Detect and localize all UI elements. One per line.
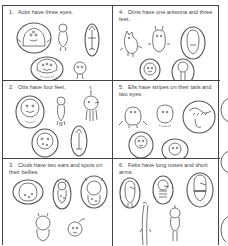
creature-drawings xyxy=(113,6,220,80)
cell-3-cluds: 3.Cluds have two ears and spots on their… xyxy=(3,159,112,246)
creature-drawings xyxy=(3,6,112,80)
worksheet-grid: 1.Acks have three eyes. 4.Dints have one… xyxy=(2,5,219,245)
adjacent-page-drawings xyxy=(219,0,228,242)
circled-creature[interactable] xyxy=(120,178,140,208)
cell-4-dints: 4.Dints have one antenna and three feet. xyxy=(113,6,220,80)
creature-drawings xyxy=(3,81,112,158)
circled-creature[interactable] xyxy=(31,57,63,80)
circled-creature[interactable] xyxy=(140,59,160,80)
creature-drawings xyxy=(3,159,112,246)
partial-circled-creature xyxy=(221,216,228,242)
circled-creature[interactable] xyxy=(13,180,43,204)
partial-circled-creature xyxy=(221,151,228,173)
circled-creature[interactable] xyxy=(53,179,71,209)
circled-creature[interactable] xyxy=(187,173,213,207)
circled-creature[interactable] xyxy=(183,101,215,133)
partial-circled-creature xyxy=(221,98,228,122)
cell-1-acks: 1.Acks have three eyes. xyxy=(3,6,112,80)
circled-creature[interactable] xyxy=(17,23,51,53)
creature-drawings xyxy=(113,159,220,246)
cell-2-otts: 2.Otts have four feet. xyxy=(3,81,112,158)
circled-creature[interactable] xyxy=(16,96,44,128)
cell-6-febs: 6.Febs have long noses and short arms. xyxy=(113,159,220,246)
cell-5-ells: 5.Ells have stripes on their tails and t… xyxy=(113,81,220,158)
creature-drawings xyxy=(113,81,220,158)
